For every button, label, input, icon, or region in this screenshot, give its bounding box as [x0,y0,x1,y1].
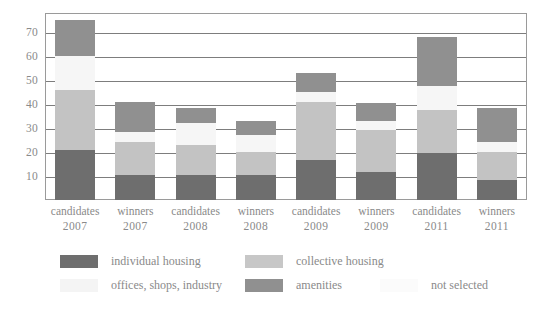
bar-segment-individual-housing [417,153,457,200]
y-tick-label-70: 70 [0,26,38,38]
bar-group[interactable] [115,13,155,200]
y-tick-label-30: 30 [0,122,38,134]
y-tick-label-60: 60 [0,50,38,62]
bar-group[interactable] [477,13,517,200]
bar-segment-amenities [176,108,216,124]
bar-segment-individual-housing [236,175,276,200]
legend-label-amenities: amenities [296,278,342,293]
legend-item-offices[interactable]: offices, shops, industry [60,278,222,293]
y-tick-label-10: 10 [0,170,38,182]
bar-segment-individual-housing [477,180,517,200]
chart-legend: individual housingcollective housingoffi… [0,250,553,305]
legend-swatch-offices [60,279,98,292]
bar-group[interactable] [55,13,95,200]
x-tick-label: candidates2008 [166,204,226,234]
bar-segment-individual-housing [296,160,336,200]
bar-segment-amenities [417,37,457,86]
legend-item-amenities[interactable]: amenities [245,278,342,293]
bars-layer [45,13,527,200]
legend-swatch-individual [60,255,98,268]
bar-group[interactable] [176,13,216,200]
bar-segment-individual-housing [55,150,95,200]
bar-segment-offices [477,142,517,152]
bar-segment-amenities [296,73,336,92]
x-tick-label-name: winners [226,204,286,219]
bar-segment-collective-housing [356,130,396,172]
x-tick-label-name: winners [467,204,527,219]
bar-stack [55,20,95,200]
bar-stack [115,102,155,200]
bar-segment-offices [296,92,336,102]
x-tick-label-year: 2007 [105,219,165,234]
bar-segment-individual-housing [176,175,216,200]
legend-label-individual: individual housing [111,254,201,269]
bar-segment-collective-housing [115,142,155,174]
bar-segment-collective-housing [176,145,216,175]
bar-segment-collective-housing [477,152,517,180]
x-tick-label-year: 2011 [407,219,467,234]
x-tick-label: candidates2011 [407,204,467,234]
bar-stack [176,108,216,200]
x-tick-label-name: candidates [407,204,467,219]
bar-segment-offices [115,132,155,143]
x-tick-label: winners2007 [105,204,165,234]
y-tick-label-40: 40 [0,98,38,110]
x-tick-label-year: 2008 [166,219,226,234]
x-tick-label: winners2011 [467,204,527,234]
x-tick-label-name: winners [346,204,406,219]
bar-stack [417,37,457,200]
x-tick-label: candidates2009 [286,204,346,234]
legend-label-notselected: not selected [431,278,488,293]
bar-stack [296,73,336,200]
legend-label-collective: collective housing [296,254,384,269]
bar-group[interactable] [417,13,457,200]
x-axis-tick-labels: candidates2007winners2007candidates2008w… [45,204,527,244]
legend-item-collective[interactable]: collective housing [245,254,384,269]
y-axis-tick-labels: 10203040506070 [0,13,45,200]
x-tick-label-year: 2007 [45,219,105,234]
legend-swatch-collective [245,255,283,268]
x-tick-label-name: candidates [166,204,226,219]
y-tick-label-50: 50 [0,74,38,86]
bar-segment-amenities [236,121,276,135]
bar-group[interactable] [356,13,396,200]
bar-group[interactable] [296,13,336,200]
x-tick-label: winners2008 [226,204,286,234]
bar-segment-collective-housing [55,90,95,150]
legend-swatch-notselected [380,279,418,292]
x-tick-label: candidates2007 [45,204,105,234]
x-tick-label-year: 2009 [346,219,406,234]
bar-segment-collective-housing [296,102,336,161]
bar-group[interactable] [236,13,276,200]
bar-stack [356,103,396,200]
chart-figure: 10203040506070 candidates2007winners2007… [0,0,553,309]
bar-segment-offices [356,121,396,131]
bar-segment-offices [417,86,457,110]
bar-segment-individual-housing [115,175,155,200]
bar-segment-amenities [477,108,517,143]
x-tick-label-year: 2009 [286,219,346,234]
x-tick-label-year: 2011 [467,219,527,234]
legend-item-notselected[interactable]: not selected [380,278,488,293]
bar-segment-offices [176,123,216,145]
legend-item-individual[interactable]: individual housing [60,254,201,269]
bar-segment-offices [236,135,276,152]
bar-segment-amenities [115,102,155,132]
bar-segment-collective-housing [236,152,276,175]
x-tick-label-name: winners [105,204,165,219]
x-tick-label-name: candidates [45,204,105,219]
x-tick-label-name: candidates [286,204,346,219]
legend-label-offices: offices, shops, industry [111,278,222,293]
bar-segment-collective-housing [417,110,457,153]
bar-segment-offices [55,56,95,90]
bar-segment-amenities [55,20,95,56]
x-tick-label-year: 2008 [226,219,286,234]
legend-swatch-amenities [245,279,283,292]
y-tick-label-20: 20 [0,146,38,158]
x-tick-label: winners2009 [346,204,406,234]
bar-stack [477,108,517,200]
bar-segment-amenities [356,103,396,121]
bar-stack [236,121,276,200]
bar-segment-individual-housing [356,172,396,200]
